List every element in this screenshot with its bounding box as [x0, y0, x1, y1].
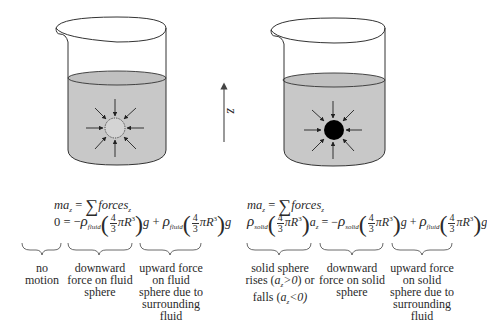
- left-equation-line2: 0 = −ρfluid(43πR3)g + ρfluid(43πR3)g: [54, 213, 231, 234]
- z-axis-label: z: [225, 108, 237, 113]
- braces-right: [247, 243, 452, 255]
- annotation-solid-sphere-motion: solid sphere rises (az>0) or falls (az<0…: [242, 262, 318, 309]
- annotation-downward-force-fluid: downward force on fluid sphere: [62, 262, 138, 298]
- fluid-sphere: [105, 118, 125, 138]
- left-beaker: [56, 17, 166, 165]
- solid-sphere: [324, 120, 344, 140]
- annotation-downward-force-solid: downward force on solid sphere: [312, 262, 392, 298]
- right-beaker: [271, 18, 385, 166]
- braces-left: [22, 243, 201, 255]
- annotation-upward-force-solid: upward force on solid sphere due to surr…: [386, 262, 458, 322]
- fraction: 43: [110, 213, 117, 234]
- right-equation-line2: ρsolid(43πR3)az = −ρsolid(43πR3)g + ρflu…: [247, 213, 487, 234]
- annotation-upward-force-fluid: upward force on fluid sphere due to surr…: [135, 262, 207, 322]
